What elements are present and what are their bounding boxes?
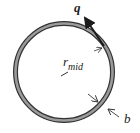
thickness-arrow-outer — [108, 109, 119, 117]
thickness-label: b — [124, 111, 131, 127]
radius-mark — [61, 72, 68, 76]
radius-label: rmid — [63, 54, 83, 72]
shear-flow-label: q — [74, 0, 81, 16]
radius-subscript: mid — [68, 61, 83, 72]
thickness-arrow-inner — [88, 94, 98, 102]
